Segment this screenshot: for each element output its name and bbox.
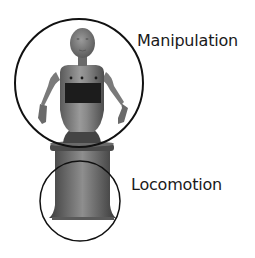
mobile-base — [49, 141, 116, 220]
robot-right-arm — [102, 72, 128, 124]
locomotion-label: Locomotion — [131, 175, 222, 194]
sensor-dot — [70, 77, 73, 80]
chest-screen — [65, 83, 101, 103]
robot-diagram: Manipulation Locomotion — [0, 0, 255, 258]
robot-head — [70, 28, 95, 66]
robot-torso — [60, 65, 104, 132]
manipulation-label: Manipulation — [137, 31, 238, 50]
sensor-dot — [81, 77, 84, 80]
robot-left-arm — [38, 72, 60, 124]
sensor-dot — [95, 77, 98, 80]
